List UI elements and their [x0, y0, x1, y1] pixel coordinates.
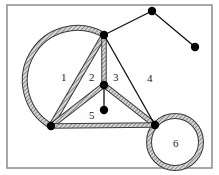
vertex-F	[47, 122, 55, 130]
face-label-3: 3	[113, 71, 119, 83]
planar-graph-diagram: 123456	[0, 0, 219, 175]
face-label-1: 1	[61, 71, 67, 83]
face-label-4: 4	[147, 72, 153, 84]
vertex-B	[148, 7, 156, 15]
vertex-C	[191, 43, 199, 51]
vertex-E	[100, 106, 108, 114]
vertex-D	[100, 81, 108, 89]
hatched-edge-fill	[51, 125, 155, 126]
face-label-2: 2	[89, 71, 95, 83]
vertex-G	[151, 121, 159, 129]
vertex-A	[100, 31, 108, 39]
face-label-5: 5	[89, 109, 95, 121]
face-label-6: 6	[173, 137, 179, 149]
